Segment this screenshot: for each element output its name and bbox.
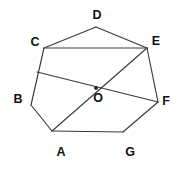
edge-ef (147, 48, 158, 102)
marked-point-dots (94, 86, 98, 90)
vertex-label-a: A (56, 146, 65, 159)
edge-bc (31, 48, 44, 105)
vertex-label-g: G (125, 146, 135, 159)
edge-de (96, 27, 147, 48)
vertex-label-d: D (92, 9, 101, 22)
vertex-label-o: O (93, 92, 103, 105)
edge-fg (123, 102, 158, 132)
edge-ab (31, 105, 52, 131)
edge-cd (44, 27, 96, 48)
vertex-label-e: E (152, 35, 160, 48)
diagonal-ae (52, 48, 147, 131)
figure-canvas (0, 0, 176, 171)
polygon-edges (31, 27, 158, 132)
vertex-label-c: C (30, 36, 39, 49)
geometry-figure: ABCDEFGO (0, 0, 176, 171)
vertex-label-b: B (13, 93, 22, 106)
edge-ga (52, 131, 123, 132)
vertex-label-f: F (162, 95, 170, 108)
polygon-diagonals (37, 48, 158, 131)
point-dot-o (94, 86, 98, 90)
